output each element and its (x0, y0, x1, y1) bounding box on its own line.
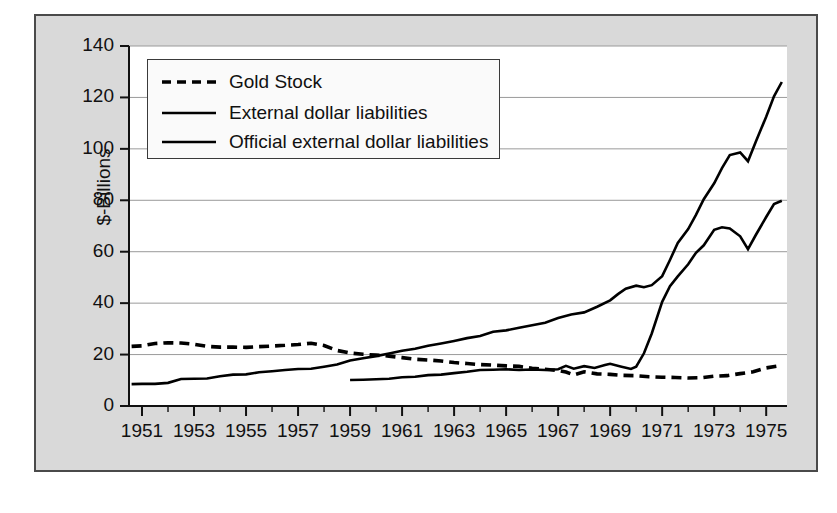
x-tick-label: 1959 (320, 420, 380, 442)
y-tick-label: 120 (62, 85, 114, 107)
y-tick-label: 140 (62, 34, 114, 56)
x-tick-label: 1961 (372, 420, 432, 442)
legend-item-external-dollar-liabilities: External dollar liabilities (148, 97, 499, 128)
legend-label-gold-stock: Gold Stock (229, 71, 322, 93)
x-tick-label: 1957 (268, 420, 328, 442)
legend-swatch-dashed-icon (161, 75, 217, 89)
x-tick-label: 1973 (684, 420, 744, 442)
chart-figure-frame: $-Billions 140120100806040200 1951195319… (34, 14, 818, 472)
x-tick-label: 1967 (528, 420, 588, 442)
x-tick-label: 1951 (112, 420, 172, 442)
legend-item-official-external-dollar-liabilities: Official external dollar liabilities (148, 126, 499, 157)
figure-root: $-Billions 140120100806040200 1951195319… (0, 0, 837, 513)
x-tick-label: 1971 (632, 420, 692, 442)
x-tick-label: 1963 (424, 420, 484, 442)
y-tick-label: 60 (62, 240, 114, 262)
chart-legend: Gold Stock External dollar liabilities O… (147, 59, 500, 159)
x-tick-label: 1953 (164, 420, 224, 442)
y-tick-label: 0 (62, 394, 114, 416)
y-tick-label: 100 (62, 137, 114, 159)
x-tick-label: 1969 (580, 420, 640, 442)
legend-item-gold-stock: Gold Stock (148, 66, 499, 97)
x-tick-label: 1955 (216, 420, 276, 442)
x-tick-label: 1975 (736, 420, 796, 442)
y-tick-label: 40 (62, 291, 114, 313)
y-tick-label: 80 (62, 188, 114, 210)
legend-swatch-solid-icon (161, 106, 217, 120)
legend-label-official-external-dollar-liabilities: Official external dollar liabilities (229, 131, 488, 153)
legend-label-external-dollar-liabilities: External dollar liabilities (229, 102, 428, 124)
y-tick-label: 20 (62, 343, 114, 365)
legend-swatch-solid-2-icon (161, 135, 217, 149)
x-tick-label: 1965 (476, 420, 536, 442)
